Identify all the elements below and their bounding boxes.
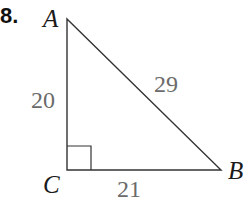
vertex-label-b: B — [228, 158, 243, 183]
triangle-abc — [67, 19, 221, 170]
side-label-ac: 20 — [31, 88, 55, 112]
triangle-diagram: 8. A B C 20 29 21 — [0, 0, 248, 210]
side-label-ab: 29 — [154, 72, 178, 96]
vertex-label-c: C — [43, 172, 60, 197]
vertex-label-a: A — [43, 6, 58, 31]
right-angle-marker — [67, 146, 91, 170]
side-label-cb: 21 — [117, 177, 141, 201]
